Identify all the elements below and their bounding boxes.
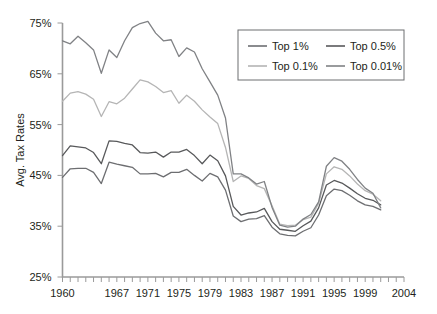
legend-label-top-1: Top 1% bbox=[272, 40, 309, 52]
y-tick-label: 45% bbox=[29, 169, 51, 181]
x-axis-tick-labels: 1960196719711975197919831987199119951999… bbox=[50, 287, 416, 299]
y-axis-title: Avg. Tax Rates bbox=[14, 113, 26, 187]
series-line-top-1 bbox=[63, 162, 381, 236]
x-tick-label: 1991 bbox=[291, 287, 315, 299]
series-line-top-0-5 bbox=[63, 141, 381, 231]
x-tick-label: 1975 bbox=[167, 287, 191, 299]
y-tick-label: 55% bbox=[29, 119, 51, 131]
legend-label-top-0-5: Top 0.5% bbox=[350, 40, 396, 52]
y-tick-label: 25% bbox=[29, 271, 51, 283]
x-tick-label: 1987 bbox=[260, 287, 284, 299]
x-tick-label: 2004 bbox=[392, 287, 416, 299]
chart-legend: Top 1%Top 0.5%Top 0.1%Top 0.01% bbox=[238, 30, 404, 80]
y-tick-label: 65% bbox=[29, 68, 51, 80]
y-axis-tick-labels: 25%35%45%55%65%75% bbox=[29, 17, 51, 283]
chart-canvas: 25%35%45%55%65%75% 196019671971197519791… bbox=[0, 0, 437, 314]
y-tick-label: 75% bbox=[29, 17, 51, 29]
x-tick-label: 1999 bbox=[353, 287, 377, 299]
x-tick-label: 1960 bbox=[50, 287, 74, 299]
x-tick-label: 1967 bbox=[105, 287, 129, 299]
tax-rates-chart: 25%35%45%55%65%75% 196019671971197519791… bbox=[0, 0, 437, 314]
legend-label-top-0-1: Top 0.1% bbox=[272, 60, 318, 72]
x-tick-label: 1971 bbox=[136, 287, 160, 299]
x-tick-label: 1983 bbox=[229, 287, 253, 299]
x-tick-label: 1979 bbox=[198, 287, 222, 299]
series-line-top-0-1 bbox=[63, 80, 381, 226]
legend-label-top-0-01: Top 0.01% bbox=[350, 60, 402, 72]
y-tick-label: 35% bbox=[29, 220, 51, 232]
legend-box bbox=[238, 30, 404, 80]
x-tick-label: 1995 bbox=[322, 287, 346, 299]
